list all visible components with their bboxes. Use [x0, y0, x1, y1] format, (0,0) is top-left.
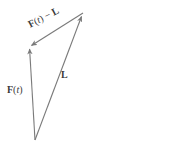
limit-label-bold-l: L: [61, 69, 68, 80]
limit-vector-label: L: [61, 70, 68, 80]
vector-diagram-figure: F(t) − L F(t) L: [0, 0, 187, 150]
force-vector-line: [30, 49, 35, 140]
limit-vector-line: [35, 17, 82, 141]
force-vector-label: F(t): [7, 85, 23, 95]
force-label-paren-close: ): [19, 84, 22, 95]
